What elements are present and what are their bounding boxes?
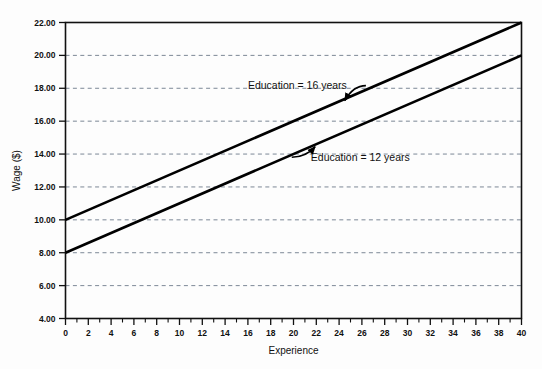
x-axis-tick-label: 36 <box>471 328 481 338</box>
x-axis-tick-label: 38 <box>494 328 504 338</box>
x-axis-title: Experience <box>268 345 318 356</box>
x-axis-tick-label: 18 <box>266 328 276 338</box>
x-axis-tick-label: 6 <box>132 328 137 338</box>
y-axis-tick-label: 18.00 <box>34 83 56 93</box>
x-axis-tick-label: 22 <box>312 328 322 338</box>
annotation-label: Education = 16 years <box>248 79 347 91</box>
y-axis-tick-label: 8.00 <box>39 248 56 258</box>
y-axis-tick-label: 14.00 <box>34 149 56 159</box>
x-axis-tick-label: 32 <box>426 328 436 338</box>
y-axis-tick-label: 10.00 <box>34 215 56 225</box>
x-axis-tick-label: 34 <box>448 328 458 338</box>
x-axis-tick-label: 16 <box>243 328 253 338</box>
y-axis-title: Wage ($) <box>11 150 22 191</box>
x-axis-tick-label: 40 <box>517 328 527 338</box>
y-axis-tick-label: 12.00 <box>34 182 56 192</box>
y-axis-tick-label: 22.00 <box>34 18 56 28</box>
y-axis-tick-label: 4.00 <box>39 314 56 324</box>
x-axis-tick-label: 30 <box>403 328 413 338</box>
chart-canvas: 02468101214161820222426283032343638404.0… <box>0 0 542 369</box>
x-axis-tick-label: 20 <box>289 328 299 338</box>
wage-experience-chart: 02468101214161820222426283032343638404.0… <box>0 0 542 369</box>
x-axis-tick-label: 28 <box>380 328 390 338</box>
x-axis-tick-label: 26 <box>357 328 367 338</box>
x-axis-tick-label: 4 <box>109 328 114 338</box>
x-axis-tick-label: 12 <box>198 328 208 338</box>
y-axis-tick-label: 20.00 <box>34 50 56 60</box>
annotation-label: Education = 12 years <box>311 151 410 163</box>
x-axis-tick-label: 10 <box>175 328 185 338</box>
plot-frame <box>66 23 522 319</box>
x-axis-tick-label: 14 <box>220 328 230 338</box>
y-axis-tick-label: 6.00 <box>39 281 56 291</box>
x-axis-tick-label: 2 <box>86 328 91 338</box>
x-axis-tick-label: 8 <box>154 328 159 338</box>
x-axis-tick-label: 0 <box>63 328 68 338</box>
x-axis-tick-label: 24 <box>334 328 344 338</box>
y-axis-tick-label: 16.00 <box>34 116 56 126</box>
